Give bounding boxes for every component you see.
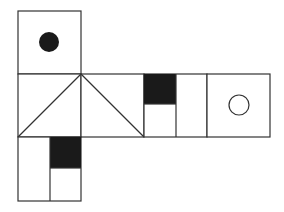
dark-block — [50, 137, 81, 168]
triangle-face-left — [18, 74, 81, 137]
bottom-face — [18, 137, 81, 201]
top-face — [18, 11, 81, 74]
dark-block — [144, 74, 176, 104]
filled-dot-icon — [39, 32, 59, 52]
triangle-face-mid — [81, 74, 144, 137]
cube-net-diagram — [0, 0, 284, 212]
open-circle-icon — [229, 95, 249, 115]
circle-face — [207, 74, 270, 137]
split-face-right — [144, 74, 207, 137]
